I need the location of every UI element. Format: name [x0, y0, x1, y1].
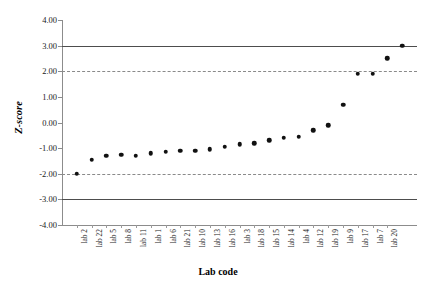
x-tick-label: lab 19 — [331, 229, 340, 247]
y-tick-label: 1.00 — [42, 92, 57, 102]
data-point — [208, 147, 213, 152]
x-tick-mark — [151, 225, 152, 228]
x-tick-label: lab 9 — [346, 229, 355, 244]
x-tick-mark — [121, 225, 122, 228]
x-tick-label: lab 22 — [95, 229, 104, 247]
x-tick-label: lab 2 — [80, 229, 89, 244]
x-tick-label: lab 6 — [169, 229, 178, 244]
x-tick-label: lab 12 — [316, 229, 325, 247]
y-tick-label: -4.00 — [39, 220, 57, 230]
data-point — [222, 145, 227, 150]
x-tick-label: lab 13 — [213, 229, 222, 247]
data-point — [356, 72, 361, 77]
x-tick-label: lab 4 — [302, 229, 311, 244]
data-point — [134, 154, 139, 159]
x-tick-label: lab 11 — [139, 229, 148, 247]
x-tick-mark — [166, 225, 167, 228]
data-point — [75, 172, 80, 177]
x-tick-mark — [358, 225, 359, 228]
x-tick-label: lab 5 — [109, 229, 118, 244]
x-tick-mark — [180, 225, 181, 228]
reference-line--2 — [62, 174, 417, 175]
x-tick-label: lab 14 — [287, 229, 296, 247]
x-tick-mark — [313, 225, 314, 228]
x-tick-mark — [299, 225, 300, 228]
x-tick-label: lab 21 — [183, 229, 192, 247]
x-axis-title: Lab code — [0, 266, 436, 277]
x-tick-label: lab 3 — [243, 229, 252, 244]
x-tick-mark — [328, 225, 329, 228]
x-tick-label: lab 10 — [198, 229, 207, 247]
x-tick-label: lab 16 — [228, 229, 237, 247]
x-tick-mark — [77, 225, 78, 228]
data-point — [326, 123, 331, 128]
z-score-chart: Z-score 4.003.002.001.000.00-1.00-2.00-3… — [0, 0, 436, 286]
x-tick-label: lab 7 — [376, 229, 385, 244]
data-point — [252, 141, 257, 146]
data-point — [400, 43, 405, 48]
data-point — [282, 136, 287, 141]
x-tick-label: lab 1 — [154, 229, 163, 244]
y-tick-mark — [58, 225, 62, 226]
y-tick-label: -1.00 — [39, 143, 57, 153]
data-point — [267, 138, 272, 143]
data-point — [149, 151, 154, 156]
x-tick-mark — [210, 225, 211, 228]
x-tick-mark — [269, 225, 270, 228]
data-point — [341, 102, 346, 107]
data-point — [311, 128, 316, 133]
x-tick-label: lab 17 — [361, 229, 370, 247]
y-tick-label: -2.00 — [39, 169, 57, 179]
x-tick-mark — [254, 225, 255, 228]
x-tick-label: lab 8 — [124, 229, 133, 244]
data-point — [296, 134, 301, 139]
data-point — [370, 72, 375, 77]
data-point — [385, 56, 390, 61]
y-tick-label: 0.00 — [42, 118, 57, 128]
data-point — [89, 157, 94, 162]
x-tick-mark — [92, 225, 93, 228]
x-tick-label: lab 18 — [257, 229, 266, 247]
x-tick-mark — [136, 225, 137, 228]
x-tick-label: lab 20 — [390, 229, 399, 247]
x-tick-mark — [373, 225, 374, 228]
data-point — [178, 148, 183, 153]
x-tick-mark — [225, 225, 226, 228]
data-point — [119, 152, 124, 157]
x-tick-mark — [284, 225, 285, 228]
x-tick-mark — [106, 225, 107, 228]
reference-line-2 — [62, 71, 417, 72]
data-point — [237, 142, 242, 147]
x-tick-mark — [343, 225, 344, 228]
y-tick-label: 2.00 — [42, 66, 57, 76]
y-tick-label: 4.00 — [42, 15, 57, 25]
data-point — [193, 148, 198, 153]
data-point — [104, 154, 109, 159]
x-tick-mark — [195, 225, 196, 228]
reference-line-3 — [62, 46, 417, 47]
y-tick-label: -3.00 — [39, 194, 57, 204]
x-tick-mark — [387, 225, 388, 228]
plot-area — [62, 20, 417, 225]
y-tick-label: 3.00 — [42, 41, 57, 51]
reference-line--3 — [62, 199, 417, 200]
data-point — [163, 150, 168, 155]
y-axis-title: Z-score — [13, 101, 24, 134]
x-tick-mark — [240, 225, 241, 228]
x-tick-label: lab 15 — [272, 229, 281, 247]
